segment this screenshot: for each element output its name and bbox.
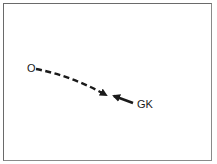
goalkeeper-label: GK bbox=[137, 99, 153, 110]
origin-label: O bbox=[27, 63, 36, 74]
solid-path-arrow bbox=[114, 96, 133, 103]
diagram-canvas bbox=[0, 0, 217, 164]
dashed-path-arrow bbox=[36, 69, 106, 95]
